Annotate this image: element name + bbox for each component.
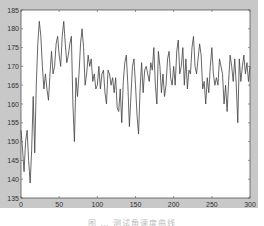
x-tick-label: 250: [206, 201, 218, 208]
y-tick-label: 170: [7, 63, 19, 70]
y-tick-label: 180: [7, 25, 19, 32]
y-tick-label: 165: [7, 82, 19, 89]
x-tick-label: 200: [168, 201, 180, 208]
x-tick-label: 0: [19, 201, 23, 208]
y-tick-label: 155: [7, 119, 19, 126]
y-tick-label: 160: [7, 101, 19, 108]
y-tick-label: 145: [7, 157, 19, 164]
y-tick-label: 150: [7, 138, 19, 145]
x-tick-label: 50: [55, 201, 63, 208]
y-tick-label: 185: [7, 7, 19, 14]
x-tick-label: 300: [244, 201, 256, 208]
y-tick-label: 140: [7, 176, 19, 183]
x-tick-label: 150: [130, 201, 142, 208]
line-chart: 0501001502002503001351401451501551601651…: [0, 0, 264, 212]
figure-caption: 图 … 测试角速度曲线: [0, 217, 264, 226]
x-tick-label: 100: [91, 201, 103, 208]
y-tick-label: 135: [7, 195, 19, 202]
plot-area: [21, 10, 250, 198]
y-tick-label: 175: [7, 44, 19, 51]
